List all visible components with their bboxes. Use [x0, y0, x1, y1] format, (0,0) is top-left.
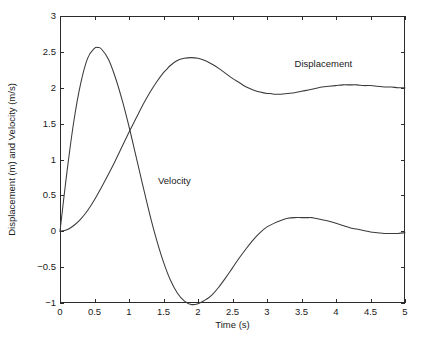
- x-tick-label: 4: [333, 306, 338, 317]
- x-tick-label: 3: [264, 306, 269, 317]
- chart-canvas: 00.511.522.533.544.55 −1−0.500.511.522.5…: [0, 0, 423, 345]
- y-axis-title: Displacement (m) and Velocity (m/s): [6, 83, 17, 236]
- y-tick-label: 3: [51, 10, 56, 21]
- y-tick-label: 1.5: [43, 118, 56, 129]
- x-tick-label: 2: [195, 306, 200, 317]
- y-tick-label: 1: [51, 154, 56, 165]
- chart-figure: 00.511.522.533.544.55 −1−0.500.511.522.5…: [0, 0, 423, 345]
- x-tick-label: 2.5: [226, 306, 239, 317]
- x-tick-label: 3.5: [295, 306, 308, 317]
- x-tick-label: 0: [57, 306, 62, 317]
- y-tick-label: −0.5: [37, 261, 56, 272]
- annotation-displacement: Displacement: [295, 58, 353, 69]
- x-axis-title: Time (s): [215, 319, 249, 330]
- annotation-velocity: Velocity: [158, 175, 191, 186]
- x-tick-label: 0.5: [88, 306, 101, 317]
- x-tick-label: 1: [126, 306, 131, 317]
- y-tick-label: 0.5: [43, 189, 56, 200]
- x-tick-label: 5: [402, 306, 407, 317]
- x-tick-label: 4.5: [364, 306, 377, 317]
- y-tick-label: −1: [45, 297, 56, 308]
- y-tick-label: 0: [51, 225, 56, 236]
- x-tick-label: 1.5: [157, 306, 170, 317]
- figure-background: [0, 0, 423, 345]
- y-tick-label: 2: [51, 82, 56, 93]
- y-tick-label: 2.5: [43, 46, 56, 57]
